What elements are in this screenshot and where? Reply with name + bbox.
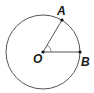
radius-oa bbox=[43, 20, 62, 52]
label-a: A bbox=[57, 5, 66, 17]
point-b bbox=[78, 50, 81, 53]
circle-diagram bbox=[0, 0, 94, 93]
label-o: O bbox=[33, 53, 42, 65]
label-b: B bbox=[81, 56, 90, 68]
point-a bbox=[60, 18, 63, 21]
angle-arc bbox=[47, 45, 51, 52]
